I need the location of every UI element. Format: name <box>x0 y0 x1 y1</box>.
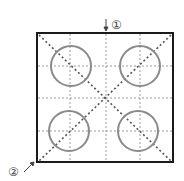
diagram-canvas: ① ② <box>0 0 184 181</box>
marker-2-label: ② <box>8 165 19 179</box>
marker-1-label: ① <box>111 18 122 32</box>
diagonal-arrow-icon <box>24 162 34 172</box>
down-arrow-icon <box>104 19 108 31</box>
